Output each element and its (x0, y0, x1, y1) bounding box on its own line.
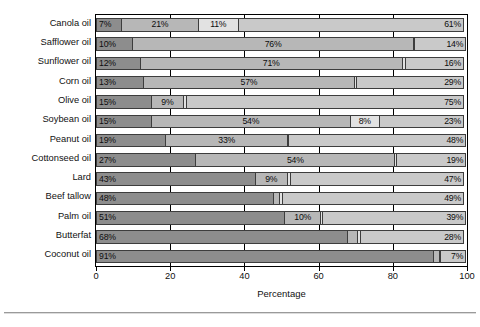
segment-value-label: 7% (451, 252, 463, 261)
bar-segment[interactable]: 13% (96, 76, 144, 90)
category-label: Safflower oil (0, 37, 91, 47)
segment-value-label: 54% (242, 117, 259, 126)
stacked-bar[interactable]: 7%21%11%61% (96, 18, 467, 32)
bar-row: 10%76%Trace14% (96, 34, 467, 53)
segment-value-label: 51% (99, 213, 116, 222)
stacked-bar[interactable]: 15%54%8%23% (96, 115, 467, 129)
x-tick-label: 60 (313, 271, 323, 281)
bar-segment[interactable]: 23% (379, 115, 464, 129)
stacked-bar[interactable]: 19%33%Trace48% (96, 134, 467, 148)
category-label: Canola oil (0, 18, 91, 28)
bar-segment[interactable]: 19% (396, 153, 466, 167)
category-axis-labels: Canola oilSafflower oilSunflower oilCorn… (0, 14, 91, 267)
x-axis-title: Percentage (95, 288, 468, 299)
category-label: Coconut oil (0, 249, 91, 259)
bar-segment[interactable]: 33% (165, 134, 287, 148)
x-tick-label: 80 (388, 271, 398, 281)
bar-segment[interactable]: 47% (290, 172, 464, 186)
category-label: Cottonseed oil (0, 153, 91, 163)
bar-row: 51%10%Trace39% (96, 208, 467, 227)
bar-segment[interactable]: 29% (356, 76, 464, 90)
stacked-bar[interactable]: 43%9%1%47% (96, 172, 467, 186)
bar-row: 48%2%1%49% (96, 189, 467, 208)
bar-segment[interactable]: 43% (96, 172, 256, 186)
bar-segment[interactable]: 19% (96, 134, 166, 148)
segment-value-label: 33% (218, 136, 235, 145)
category-label: Corn oil (0, 76, 91, 86)
bar-segment[interactable]: 49% (282, 192, 464, 206)
stacked-bar[interactable]: 13%57%1%29% (96, 76, 467, 90)
stacked-bar[interactable]: 27%54%Trace19% (96, 153, 467, 167)
segment-value-label: 19% (99, 136, 116, 145)
bar-segment[interactable]: 68% (96, 230, 348, 244)
bar-segment[interactable]: 71% (140, 57, 403, 71)
segment-value-label: 10% (99, 40, 116, 49)
segment-value-label: 75% (444, 98, 461, 107)
segment-value-label: 15% (99, 117, 116, 126)
bar-segment[interactable]: 14% (414, 37, 466, 51)
bar-segment[interactable]: 57% (143, 76, 354, 90)
segment-value-label: 68% (99, 233, 116, 242)
x-tick-label: 40 (239, 271, 249, 281)
bar-rows: 7%21%11%61%10%76%Trace14%12%71%1%16%13%5… (96, 15, 467, 266)
stacked-bar[interactable]: 15%9%1%75% (96, 95, 467, 109)
segment-value-label: 48% (446, 136, 463, 145)
segment-value-label: 11% (210, 20, 226, 29)
bar-segment[interactable]: 15% (96, 95, 152, 109)
segment-value-label: 23% (444, 117, 461, 126)
bar-row: 12%71%1%16% (96, 54, 467, 73)
segment-value-label: 12% (99, 59, 116, 68)
segment-value-label: 27% (99, 156, 116, 165)
bar-segment[interactable]: 27% (96, 153, 196, 167)
segment-value-label: 15% (99, 98, 116, 107)
bar-segment[interactable]: 91% (96, 250, 434, 264)
stacked-bar[interactable]: 91%2%Trace7% (96, 250, 467, 264)
bar-segment[interactable]: 28% (360, 230, 464, 244)
bar-row: 19%33%Trace48% (96, 131, 467, 150)
bar-row: 43%9%1%47% (96, 169, 467, 188)
bar-segment[interactable]: 76% (132, 37, 414, 51)
bar-segment[interactable]: 8% (350, 115, 380, 129)
category-label: Butterfat (0, 230, 91, 240)
bar-segment[interactable]: 51% (96, 211, 285, 225)
segment-value-label: 13% (99, 78, 116, 87)
stacked-bar-chart: Canola oilSafflower oilSunflower oilCorn… (0, 0, 480, 327)
x-axis-ticks: 020406080100 (95, 267, 468, 283)
stacked-bar[interactable]: 12%71%1%16% (96, 57, 467, 71)
segment-value-label: 48% (99, 194, 116, 203)
bar-segment[interactable]: 7% (440, 250, 466, 264)
bar-segment[interactable]: 16% (405, 57, 464, 71)
bar-row: 7%21%11%61% (96, 15, 467, 34)
bar-segment[interactable]: 7% (96, 18, 122, 32)
stacked-bar[interactable]: 68%3%1%28% (96, 230, 467, 244)
bar-segment[interactable]: 12% (96, 57, 141, 71)
stacked-bar[interactable]: 48%2%1%49% (96, 192, 467, 206)
segment-value-label: 43% (99, 175, 116, 184)
category-label: Lard (0, 172, 91, 182)
bar-segment[interactable]: 9% (151, 95, 184, 109)
bar-segment[interactable]: 9% (255, 172, 288, 186)
bar-row: 68%3%1%28% (96, 227, 467, 246)
bar-segment[interactable]: 15% (96, 115, 152, 129)
segment-value-label: 9% (265, 175, 277, 184)
category-label: Peanut oil (0, 134, 91, 144)
bar-segment[interactable]: 10% (284, 211, 321, 225)
bar-segment[interactable]: 54% (151, 115, 351, 129)
bar-segment[interactable]: 54% (195, 153, 395, 167)
bar-segment[interactable]: 21% (121, 18, 199, 32)
segment-value-label: 7% (99, 20, 111, 29)
bar-segment[interactable]: 61% (238, 18, 464, 32)
category-label: Soybean oil (0, 114, 91, 124)
segment-value-label: 47% (444, 175, 461, 184)
segment-value-label: 71% (263, 59, 280, 68)
bar-segment[interactable]: 48% (288, 134, 466, 148)
stacked-bar[interactable]: 51%10%Trace39% (96, 211, 467, 225)
stacked-bar[interactable]: 10%76%Trace14% (96, 37, 467, 51)
bar-segment[interactable]: 75% (186, 95, 464, 109)
segment-value-label: 76% (265, 40, 282, 49)
bar-segment[interactable]: 11% (198, 18, 239, 32)
footer-divider-highlight (4, 313, 476, 314)
bar-segment[interactable]: 39% (322, 211, 467, 225)
bar-segment[interactable]: 10% (96, 37, 133, 51)
bar-segment[interactable]: 48% (96, 192, 274, 206)
